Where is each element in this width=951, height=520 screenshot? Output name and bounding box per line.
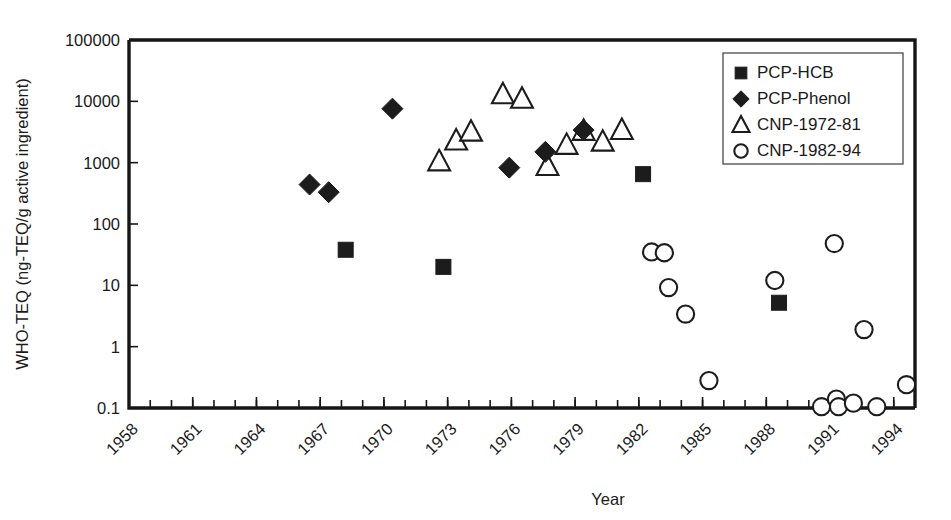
marker-open-circle	[700, 372, 717, 389]
marker-filled-square	[772, 295, 787, 310]
y-tick-label: 100	[92, 215, 120, 233]
x-tick-label: 1976	[485, 419, 524, 458]
marker-filled-square	[436, 259, 451, 274]
x-tick-label: 1970	[357, 419, 396, 458]
marker-open-triangle	[492, 83, 514, 103]
x-axis-title: Year	[591, 490, 625, 508]
marker-open-triangle	[428, 150, 450, 170]
series-cnp-1972-81	[428, 83, 633, 175]
marker-open-circle	[826, 235, 843, 252]
y-tick-label: 10	[102, 276, 120, 294]
x-tick-label: 1991	[803, 419, 842, 458]
legend-label: CNP-1982-94	[757, 141, 861, 160]
y-tick-label: 100000	[65, 31, 120, 49]
marker-open-circle	[677, 305, 694, 322]
legend-label: PCP-Phenol	[757, 89, 851, 108]
x-tick-label: 1958	[102, 419, 141, 458]
y-tick-label: 1000	[83, 154, 120, 172]
scatter-plot: 0.1110100100010000100000 195819611964196…	[0, 0, 951, 520]
marker-filled-diamond	[382, 98, 403, 119]
y-axis-tick-labels: 0.1110100100010000100000	[65, 31, 120, 417]
marker-filled-diamond	[499, 157, 520, 178]
marker-filled-square	[636, 167, 651, 182]
marker-open-triangle	[611, 119, 633, 139]
x-tick-label: 1982	[612, 419, 651, 458]
marker-open-circle	[855, 321, 872, 338]
x-tick-label: 1973	[421, 419, 460, 458]
marker-open-triangle	[460, 120, 482, 140]
marker-open-circle	[766, 272, 783, 289]
x-tick-label: 1994	[867, 419, 906, 458]
legend: PCP-HCBPCP-PhenolCNP-1972-81CNP-1982-94	[723, 53, 903, 164]
marker-filled-diamond	[318, 182, 339, 203]
marker-open-triangle	[511, 87, 533, 107]
marker-open-circle	[868, 398, 885, 415]
marker-filled-diamond	[299, 174, 320, 195]
x-tick-label: 1985	[676, 419, 715, 458]
y-axis-title: WHO-TEQ (ng-TEQ/g active ingredient)	[13, 78, 31, 370]
x-tick-label: 1979	[549, 419, 588, 458]
marker-open-circle	[660, 279, 677, 296]
x-tick-label: 1961	[166, 419, 205, 458]
y-tick-label: 0.1	[97, 399, 120, 417]
marker-filled-square	[735, 67, 747, 79]
marker-open-circle	[898, 376, 915, 393]
series-pcp-hcb	[338, 167, 786, 311]
legend-label: PCP-HCB	[757, 63, 834, 82]
y-tick-label: 1	[111, 338, 120, 356]
marker-open-circle	[845, 395, 862, 412]
marker-filled-square	[338, 242, 353, 257]
x-axis-tick-labels: 1958196119641967197019731976197919821985…	[102, 419, 905, 458]
marker-open-circle	[734, 144, 747, 157]
series-cnp-1982-94	[643, 235, 915, 415]
legend-label: CNP-1972-81	[757, 115, 861, 134]
x-tick-label: 1988	[740, 419, 779, 458]
x-tick-label: 1967	[294, 419, 333, 458]
figure-container: 0.1110100100010000100000 195819611964196…	[0, 0, 951, 520]
marker-filled-diamond	[535, 141, 556, 162]
y-tick-label: 10000	[74, 92, 120, 110]
marker-open-circle	[656, 244, 673, 261]
x-tick-label: 1964	[230, 419, 269, 458]
